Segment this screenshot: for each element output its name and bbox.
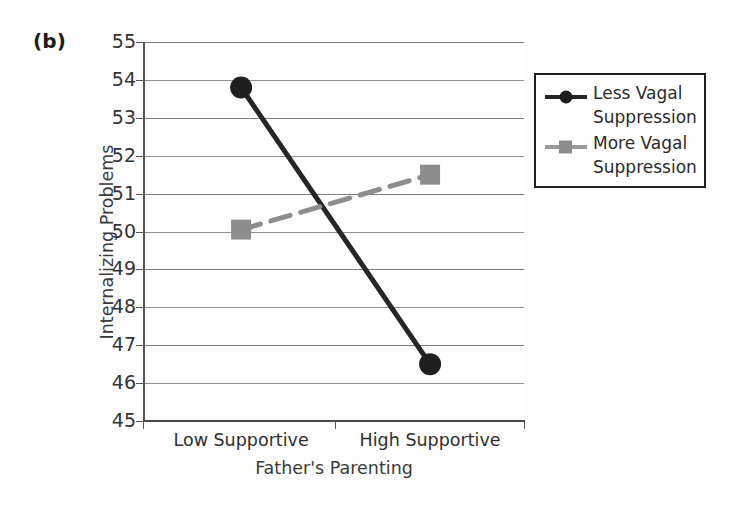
y-tick-label-54: 54	[100, 70, 136, 89]
gridline-51	[143, 194, 524, 195]
y-tick-label-55: 55	[100, 32, 136, 51]
x-tick-label-low-supportive: Low Supportive	[161, 430, 321, 450]
gridline-54	[143, 80, 524, 81]
legend-label-line1: More Vagal	[593, 131, 703, 155]
y-tick-46	[136, 383, 144, 384]
y-tick-47	[136, 345, 144, 346]
gridline-47	[143, 345, 524, 346]
y-tick-49	[136, 269, 144, 270]
gridline-55	[143, 42, 524, 43]
gridline-46	[143, 383, 524, 384]
legend-marker-square-icon	[544, 138, 588, 156]
panel-label: (b)	[33, 29, 66, 53]
x-tick-label-high-supportive: High Supportive	[350, 430, 510, 450]
plot-area	[143, 42, 524, 421]
y-tick-48	[136, 307, 144, 308]
figure-panel-b: (b) Internalizing Problems 5554535251504…	[0, 0, 755, 509]
gridline-48	[143, 307, 524, 308]
y-tick-55	[136, 42, 144, 43]
y-tick-label-49: 49	[100, 259, 136, 278]
legend: Less Vagal Suppression More Vagal Suppre…	[534, 73, 706, 188]
y-tick-53	[136, 118, 144, 119]
x-tick-1	[335, 421, 336, 429]
x-tick-2	[524, 421, 525, 429]
legend-marker-circle-icon	[544, 88, 588, 106]
y-tick-label-51: 51	[100, 184, 136, 203]
y-tick-51	[136, 194, 144, 195]
legend-label-line2: Suppression	[593, 105, 703, 129]
y-tick-label-48: 48	[100, 297, 136, 316]
y-tick-label-45: 45	[100, 411, 136, 430]
y-tick-label-46: 46	[100, 373, 136, 392]
x-axis-title: Father's Parenting	[143, 458, 525, 478]
legend-label-line1: Less Vagal	[593, 81, 703, 105]
gridline-49	[143, 269, 524, 270]
legend-label-more-vagal-suppression: More Vagal Suppression	[593, 131, 703, 179]
y-axis-tick-labels: 5554535251504948474645	[94, 0, 136, 509]
y-tick-54	[136, 80, 144, 81]
y-tick-label-47: 47	[100, 335, 136, 354]
x-tick-0	[143, 421, 144, 429]
y-tick-label-52: 52	[100, 146, 136, 165]
gridline-50	[143, 232, 524, 233]
legend-label-line2: Suppression	[593, 155, 703, 179]
y-tick-label-53: 53	[100, 108, 136, 127]
legend-label-less-vagal-suppression: Less Vagal Suppression	[593, 81, 703, 129]
y-tick-50	[136, 232, 144, 233]
y-tick-52	[136, 156, 144, 157]
y-tick-label-50: 50	[100, 222, 136, 241]
gridline-53	[143, 118, 524, 119]
gridline-52	[143, 156, 524, 157]
